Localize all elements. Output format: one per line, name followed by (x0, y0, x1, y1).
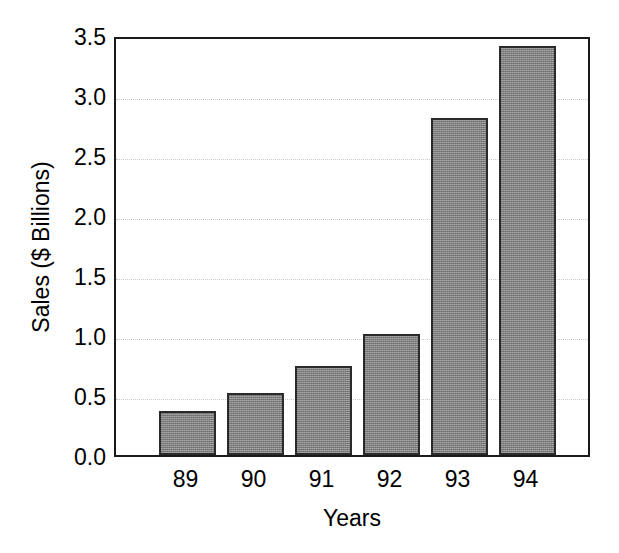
bar-94 (499, 46, 556, 455)
y-tick-label: 0.0 (44, 446, 106, 469)
x-tick-label: 91 (293, 463, 350, 495)
y-axis-tick-labels: 3.53.02.52.01.51.00.50.0 (44, 0, 106, 553)
bar-chart-figure: Sales ($ Billions) 3.53.02.52.01.51.00.5… (0, 0, 619, 553)
plot-area (114, 37, 590, 457)
x-tick-label: 90 (225, 463, 282, 495)
bar-93 (431, 118, 488, 455)
bar-92 (363, 334, 420, 455)
bar-89 (159, 411, 216, 455)
y-tick-label: 0.5 (44, 386, 106, 409)
bar-91 (295, 366, 352, 455)
y-tick-label: 1.5 (44, 266, 106, 289)
x-tick-label: 89 (157, 463, 214, 495)
x-axis-title: Years (114, 503, 590, 533)
x-tick-label: 92 (361, 463, 418, 495)
x-tick-label: 94 (497, 463, 554, 495)
y-tick-label: 2.0 (44, 206, 106, 229)
bar-series (116, 39, 588, 455)
bar-90 (227, 393, 284, 455)
y-tick-label: 2.5 (44, 146, 106, 169)
y-tick-label: 3.5 (44, 26, 106, 49)
y-tick-label: 3.0 (44, 86, 106, 109)
y-tick-label: 1.0 (44, 326, 106, 349)
x-tick-label: 93 (429, 463, 486, 495)
x-axis-tick-labels: 899091929394 (114, 463, 590, 495)
